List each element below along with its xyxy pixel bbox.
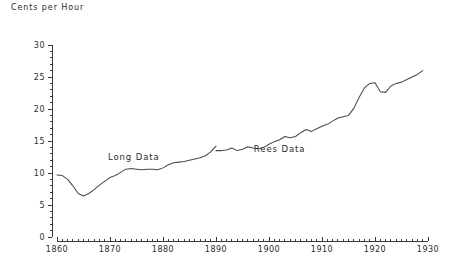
- x-tick-label: 1930: [417, 245, 439, 254]
- x-tick-label: 1920: [364, 245, 386, 254]
- y-tick-label: 5: [39, 201, 45, 210]
- y-tick-label: 15: [34, 137, 45, 146]
- series-annotation: Long Data: [108, 152, 160, 162]
- y-tick-label: 25: [34, 73, 45, 82]
- series-annotation: Rees Data: [254, 144, 306, 154]
- x-axis: 18601870188018901900191019201930: [46, 237, 439, 255]
- y-tick-label: 10: [34, 169, 45, 178]
- y-tick-label: 20: [34, 105, 45, 114]
- x-tick-label: 1860: [46, 245, 68, 254]
- x-tick-label: 1900: [258, 245, 280, 254]
- x-tick-label: 1910: [311, 245, 333, 254]
- x-tick-label: 1870: [99, 245, 121, 254]
- annotations-group: Long DataRees Data: [108, 144, 305, 162]
- y-tick-label: 0: [39, 233, 45, 242]
- x-tick-label: 1880: [152, 245, 174, 254]
- series-line-rees-data: [216, 71, 423, 151]
- line-chart: 051015202530 186018701880189019001910192…: [0, 0, 449, 269]
- data-series-group: [57, 71, 423, 196]
- x-tick-label: 1890: [205, 245, 227, 254]
- y-axis: 051015202530: [34, 41, 52, 242]
- chart-page: Cents per Hour 051015202530 186018701880…: [0, 0, 449, 269]
- y-tick-label: 30: [34, 41, 45, 50]
